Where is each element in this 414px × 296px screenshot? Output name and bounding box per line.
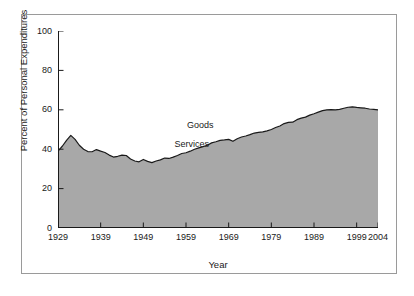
y-axis-title: Percent of Personal Expenditures [18,0,29,166]
y-tick-label: 100 [26,27,52,36]
y-tick-label: 20 [26,184,52,193]
services-series-label: Services [175,139,210,149]
x-tick-label: 1929 [41,233,75,242]
x-tick-label: 1959 [169,233,203,242]
y-tick-label: 80 [26,66,52,75]
x-tick-label: 2004 [361,233,395,242]
x-tick-label: 1969 [212,233,246,242]
x-tick-label: 1979 [254,233,288,242]
x-tick-label: 1989 [297,233,331,242]
x-tick-label: 1949 [126,233,160,242]
x-tick-label: 1939 [84,233,118,242]
figure-container: Percent of Personal Expenditures 0204060… [0,0,414,296]
y-tick-label: 40 [26,145,52,154]
goods-series-label: Goods [187,120,214,130]
plot-area: 020406080100 192919391949195919691979198… [58,31,378,228]
x-axis-title: Year [58,259,378,270]
chart-svg [58,31,378,228]
y-tick-label: 60 [26,105,52,114]
